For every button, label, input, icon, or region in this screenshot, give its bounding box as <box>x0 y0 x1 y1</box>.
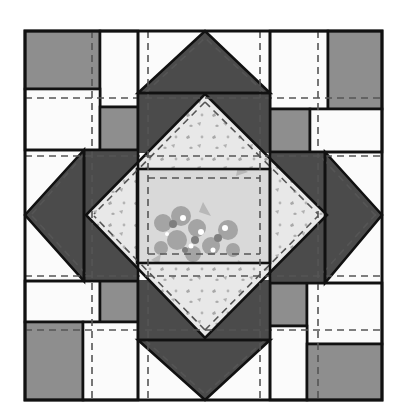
corner-patch <box>270 326 307 400</box>
corner-patch <box>270 109 310 152</box>
corner-patch <box>100 107 138 150</box>
center-floral-rectangle <box>137 169 270 263</box>
corner-patch <box>310 109 382 152</box>
corner-unit-bottom-right <box>270 283 382 400</box>
corner-patch <box>25 322 83 400</box>
corner-unit-bottom-left <box>25 281 138 400</box>
corner-patch <box>270 283 307 326</box>
quilt-block-svg <box>0 0 411 414</box>
corner-patch <box>25 31 100 89</box>
corner-patch <box>100 31 138 107</box>
corner-patch <box>25 281 100 322</box>
quilt-block-diagram <box>0 0 411 414</box>
corner-patch <box>100 281 138 322</box>
corner-unit-top-left <box>25 31 138 150</box>
corner-unit-top-right <box>270 31 382 152</box>
